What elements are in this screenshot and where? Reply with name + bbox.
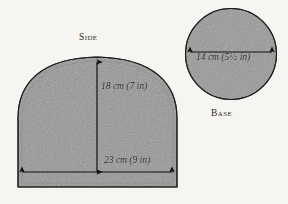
fraction-denominator: 2 (234, 54, 237, 61)
side-height-label: 18 cm (7 in) (101, 81, 147, 91)
side-title-label: Side (79, 32, 98, 42)
base-diameter-imperial: (51⁄2 in) (219, 52, 250, 62)
base-diameter-label: 14 cm (51⁄2 in) (196, 52, 250, 62)
base-title-label: Base (211, 108, 232, 118)
base-diameter-fraction: 1⁄2 (229, 52, 237, 62)
base-diameter-metric: 14 cm (196, 52, 219, 62)
diagram-page: Side Base 18 cm (7 in) 23 cm (9 in) 14 c… (0, 0, 288, 204)
base-diameter-unit: in (240, 52, 247, 62)
measurement-diagram (0, 0, 288, 204)
side-width-label: 23 cm (9 in) (104, 155, 150, 165)
